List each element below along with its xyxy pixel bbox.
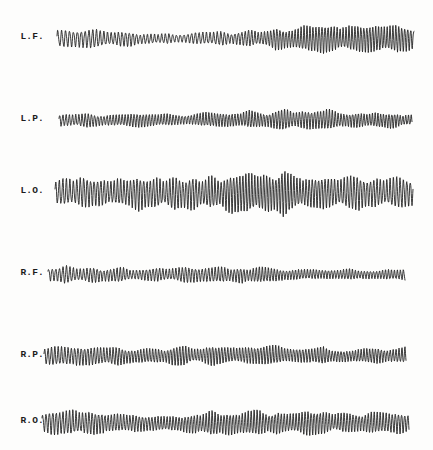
eeg-waveform-path-left-frontal <box>57 25 414 53</box>
channel-label-left-occipital: L.O. <box>0 185 44 196</box>
eeg-waveform-path-right-occipital <box>42 410 409 436</box>
eeg-trace-right-parietal <box>44 321 406 391</box>
eeg-channel-right-occipital: R.O. <box>0 387 433 450</box>
eeg-trace-left-frontal <box>57 3 414 73</box>
eeg-trace-left-parietal <box>59 85 412 155</box>
eeg-channel-right-frontal: R.F. <box>0 239 433 309</box>
eeg-trace-svg-left-parietal <box>59 85 412 155</box>
eeg-channel-left-parietal: L.P. <box>0 85 433 155</box>
eeg-waveform-path-left-occipital <box>55 171 413 216</box>
eeg-waveform-path-left-parietal <box>59 109 412 129</box>
eeg-channel-left-frontal: L.F. <box>0 3 433 73</box>
eeg-trace-right-frontal <box>48 239 405 309</box>
channel-label-right-occipital: R.O. <box>0 415 44 426</box>
channel-label-left-frontal: L.F. <box>0 31 44 42</box>
channel-label-right-frontal: R.F. <box>0 267 44 278</box>
eeg-waveform-path-right-frontal <box>48 265 405 283</box>
channel-label-right-parietal: R.P. <box>0 349 44 360</box>
channel-label-left-parietal: L.P. <box>0 113 44 124</box>
eeg-recording-page: L.F.L.P.L.O.R.F.R.P.R.O. <box>0 0 433 450</box>
eeg-channel-right-parietal: R.P. <box>0 321 433 391</box>
eeg-waveform-path-right-parietal <box>44 345 406 366</box>
eeg-channel-left-occipital: L.O. <box>0 157 433 227</box>
eeg-trace-svg-left-occipital <box>55 157 413 227</box>
eeg-trace-svg-right-frontal <box>48 239 405 309</box>
eeg-trace-right-occipital <box>42 387 409 450</box>
eeg-trace-left-occipital <box>55 157 413 227</box>
eeg-trace-svg-left-frontal <box>57 3 414 73</box>
eeg-trace-svg-right-occipital <box>42 387 409 450</box>
eeg-trace-svg-right-parietal <box>44 321 406 391</box>
